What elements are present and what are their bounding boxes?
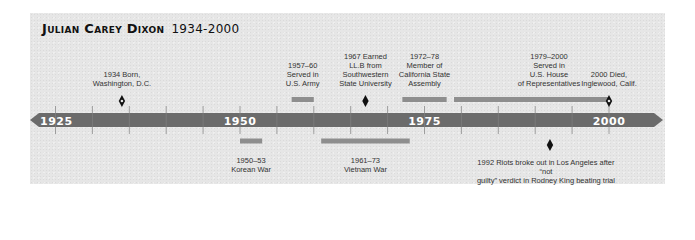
- event-marker-above: [119, 95, 125, 107]
- event-marker-below: [547, 139, 553, 151]
- event-span-bar-above: [454, 97, 609, 102]
- event-label-above: 1934 Born, Washington, D.C.: [93, 70, 152, 88]
- event-label-above: 1979–2000 Served in U.S. House of Repres…: [518, 52, 581, 88]
- event-marker-above: [362, 95, 368, 107]
- axis-year-label-1925: 1925: [40, 115, 73, 128]
- event-span-bar-below: [321, 139, 410, 144]
- event-label-below: 1950–53 Korean War: [231, 156, 271, 174]
- event-label-above: 1967 Earned LL.B from Southwestern State…: [339, 52, 392, 88]
- axis-year-label-1950: 1950: [224, 115, 257, 128]
- event-label-below: 1961–73 Vietnam War: [344, 156, 387, 174]
- timeline-axis-arrow: [30, 113, 663, 127]
- event-label-below: 1992 Riots broke out in Los Angeles afte…: [471, 158, 620, 185]
- event-label-above: 1972–78 Member of California State Assem…: [399, 52, 450, 88]
- event-span-bar-above: [402, 97, 446, 102]
- axis-year-label-2000: 2000: [593, 115, 626, 128]
- event-span-bar-below: [240, 139, 262, 144]
- event-span-bar-above: [292, 97, 314, 102]
- event-label-above: 1957–60 Served in U.S. Army: [286, 61, 320, 88]
- axis-year-label-1975: 1975: [408, 115, 441, 128]
- event-label-above: 2000 Died, Inglewood, Calif.: [581, 70, 636, 88]
- event-marker-above: [606, 95, 612, 107]
